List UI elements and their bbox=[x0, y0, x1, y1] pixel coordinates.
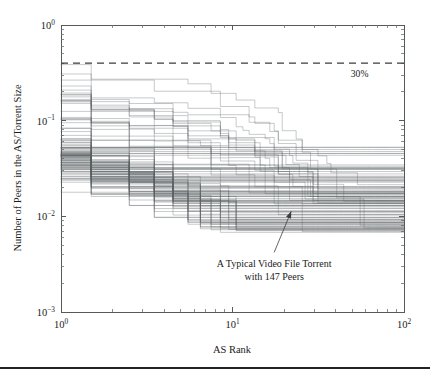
tick-label: 10−1 bbox=[37, 113, 56, 126]
x-axis-title: AS Rank bbox=[213, 344, 252, 355]
figure-container: 30% A Typical Video File Torrent with 14… bbox=[0, 0, 430, 375]
data-series-layer bbox=[61, 65, 404, 233]
tick-label: 101 bbox=[225, 317, 240, 330]
annotation-text-line-2: with 147 Peers bbox=[244, 271, 304, 282]
data-series-curve bbox=[61, 132, 404, 178]
tick-label: 100 bbox=[41, 18, 56, 31]
footer-divider bbox=[0, 367, 430, 369]
threshold-label: 30% bbox=[351, 68, 369, 79]
tick-label: 10−3 bbox=[37, 305, 56, 318]
data-series-curve bbox=[61, 167, 404, 225]
annotation-text-line-1: A Typical Video File Torrent bbox=[217, 258, 332, 269]
tick-label: 100 bbox=[54, 317, 69, 330]
data-series-curve bbox=[61, 160, 404, 218]
tick-label: 10−2 bbox=[37, 209, 56, 222]
log-log-scatter-chart: 30% A Typical Video File Torrent with 14… bbox=[0, 0, 430, 375]
threshold-line-group: 30% bbox=[61, 63, 404, 79]
tick-label: 102 bbox=[397, 317, 412, 330]
y-axis-title: Number of Peers in the AS/Torrent Size bbox=[12, 84, 23, 252]
